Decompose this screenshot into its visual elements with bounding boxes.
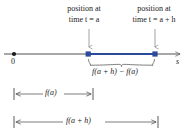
origin-label: 0 [11,57,15,67]
segment-label: f(a + h) − f(a) [92,67,138,77]
displacement-segment [86,51,158,56]
number-line-figure: position at time t = a position at time … [0,0,192,140]
brace-displacement [89,60,155,67]
axis-variable-label: s [176,57,179,67]
measure-label-f-of-a: f(a) [45,88,57,98]
origin-point [12,52,16,56]
measure-label-f-of-a-plus-h: f(a + h) [66,116,91,126]
